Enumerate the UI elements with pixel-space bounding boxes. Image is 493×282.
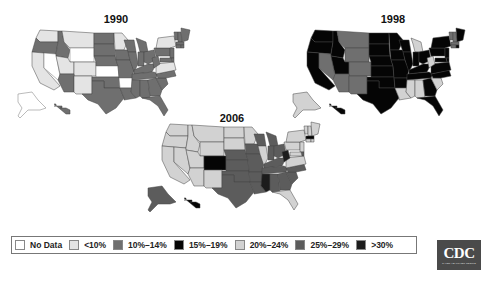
- map-title-1990: 1990: [86, 13, 146, 25]
- state-ks: [371, 66, 394, 77]
- state-vt: [304, 126, 308, 134]
- state-wy: [70, 48, 94, 62]
- state-ar: [119, 78, 132, 88]
- state-wa: [311, 30, 333, 42]
- state-ks: [96, 66, 119, 77]
- legend-swatch-gt30: [356, 240, 366, 250]
- cdc-logo: CDC SAFER·HEALTHIER·PEOPLE: [437, 240, 481, 270]
- state-nm: [204, 170, 222, 188]
- state-sd: [94, 44, 115, 56]
- state-mi: [411, 38, 423, 52]
- state-pa: [429, 48, 445, 56]
- legend-swatch-no-data: [15, 240, 25, 250]
- legend-item-10-14: 10%–14%: [113, 240, 167, 250]
- legend-label: <10%: [84, 240, 106, 250]
- legend-label: 25%–29%: [310, 240, 349, 250]
- state-in: [138, 52, 144, 66]
- state-wa: [36, 30, 58, 42]
- state-ma: [306, 136, 314, 139]
- state-ma: [176, 42, 184, 45]
- legend-swatch-20-24: [235, 240, 245, 250]
- us-map-2006: [148, 122, 328, 217]
- state-wy: [345, 48, 369, 62]
- state-mi: [136, 38, 148, 52]
- state-nd: [94, 33, 114, 44]
- legend-item-gt30: >30%: [356, 240, 393, 250]
- us-map-1998: [293, 28, 473, 118]
- legend-item-no-data: No Data: [15, 240, 62, 250]
- state-fl: [417, 96, 443, 116]
- state-mi: [266, 132, 278, 146]
- state-az: [333, 74, 349, 92]
- state-ak: [148, 186, 176, 212]
- state-ma: [451, 42, 459, 45]
- state-nj: [300, 142, 304, 152]
- legend-label: 10%–14%: [128, 240, 167, 250]
- state-fl: [272, 190, 298, 210]
- state-ar: [249, 172, 262, 182]
- state-ar: [394, 78, 407, 88]
- state-ri: [456, 45, 459, 48]
- state-az: [58, 74, 74, 92]
- state-vt: [449, 32, 453, 40]
- legend-item-lt10: <10%: [69, 240, 106, 250]
- legend-item-15-19: 15%–19%: [174, 240, 228, 250]
- state-pa: [154, 48, 170, 56]
- state-ak: [293, 92, 321, 118]
- state-nd: [369, 33, 389, 44]
- state-wy: [200, 142, 224, 156]
- legend-swatch-15-19: [174, 240, 184, 250]
- state-me: [456, 28, 465, 42]
- map-title-1998: 1998: [363, 13, 423, 25]
- state-md: [290, 152, 302, 156]
- state-ri: [181, 45, 184, 48]
- state-co: [349, 62, 371, 76]
- state-md: [160, 58, 172, 62]
- state-nm: [349, 76, 367, 94]
- state-ne: [94, 56, 118, 66]
- state-in: [413, 52, 419, 66]
- state-ny: [286, 130, 306, 142]
- state-co: [204, 156, 226, 170]
- legend-label: 15%–19%: [189, 240, 228, 250]
- legend-item-20-24: 20%–24%: [235, 240, 289, 250]
- state-ks: [226, 160, 249, 171]
- state-fl: [142, 96, 168, 116]
- state-me: [311, 122, 320, 136]
- legend-label: 20%–24%: [250, 240, 289, 250]
- state-vt: [174, 32, 178, 40]
- state-ny: [431, 36, 451, 48]
- state-ct: [451, 45, 456, 48]
- legend-label: No Data: [30, 240, 62, 250]
- cdc-logo-text: CDC: [444, 246, 475, 261]
- state-pa: [284, 142, 300, 150]
- state-ri: [311, 139, 314, 142]
- state-in: [268, 146, 274, 160]
- state-nj: [170, 48, 174, 58]
- state-ny: [156, 36, 176, 48]
- state-co: [74, 62, 96, 76]
- state-sd: [224, 138, 245, 150]
- state-wa: [166, 124, 188, 136]
- legend-label: >30%: [371, 240, 393, 250]
- legend: No Data <10% 10%–14% 15%–19% 20%–24% 25%…: [11, 236, 417, 254]
- state-ct: [306, 139, 311, 142]
- state-ak: [18, 92, 46, 118]
- state-hi: [54, 104, 70, 114]
- state-md: [435, 58, 447, 62]
- us-map-1990: [18, 28, 198, 118]
- state-me: [181, 28, 190, 42]
- legend-swatch-10-14: [113, 240, 123, 250]
- legend-swatch-25-29: [295, 240, 305, 250]
- state-nd: [224, 127, 244, 138]
- state-ne: [224, 150, 248, 160]
- cdc-logo-subtext: SAFER·HEALTHIER·PEOPLE: [442, 262, 476, 265]
- state-az: [188, 168, 204, 186]
- state-nm: [74, 76, 92, 94]
- legend-swatch-lt10: [69, 240, 79, 250]
- state-sd: [369, 44, 390, 56]
- state-ct: [176, 45, 181, 48]
- state-hi: [329, 104, 345, 114]
- state-nj: [445, 48, 449, 58]
- state-ne: [369, 56, 393, 66]
